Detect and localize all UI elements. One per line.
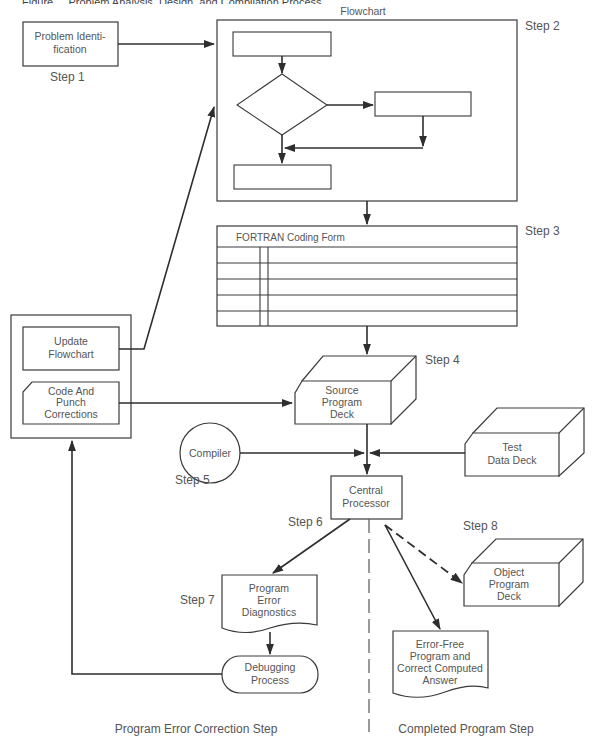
step-5-label: Step 5 bbox=[175, 473, 210, 487]
program-error-diagnostics-doc: Program Error Diagnostics bbox=[222, 575, 317, 633]
arrow-processor-to-output bbox=[385, 525, 440, 629]
compilation-process-diagram: Figure ... Problem Analysis, Design, and… bbox=[0, 0, 593, 740]
svg-text:Program: Program bbox=[489, 578, 530, 590]
step-3-label: Step 3 bbox=[525, 224, 560, 238]
svg-text:Punch: Punch bbox=[56, 396, 86, 408]
svg-text:Test: Test bbox=[502, 441, 521, 453]
step-1-label: Step 1 bbox=[50, 70, 85, 84]
svg-text:Data Deck: Data Deck bbox=[487, 454, 537, 466]
svg-text:Problem Identi-: Problem Identi- bbox=[34, 30, 106, 42]
fortran-coding-form: FORTRAN Coding Form bbox=[217, 226, 517, 326]
svg-text:Answer: Answer bbox=[422, 674, 458, 686]
object-program-deck: Object Program Deck bbox=[464, 539, 583, 606]
flowchart-title: Flowchart bbox=[340, 5, 386, 17]
flowchart-box bbox=[217, 20, 517, 201]
svg-text:Program: Program bbox=[249, 582, 290, 594]
svg-text:Object: Object bbox=[494, 566, 524, 578]
step-7-label: Step 7 bbox=[180, 593, 215, 607]
svg-text:Program: Program bbox=[322, 396, 363, 408]
svg-text:Deck: Deck bbox=[497, 590, 522, 602]
svg-text:FORTRAN Coding Form: FORTRAN Coding Form bbox=[236, 232, 345, 243]
arrow-processor-to-object-deck bbox=[385, 525, 462, 583]
svg-text:Error-Free: Error-Free bbox=[416, 638, 465, 650]
error-free-output-doc: Error-Free Program and Correct Computed … bbox=[393, 631, 488, 697]
svg-text:Compiler: Compiler bbox=[189, 447, 232, 459]
problem-identification-box: Problem Identi- fication bbox=[23, 22, 118, 66]
svg-text:Deck: Deck bbox=[330, 408, 355, 420]
section-label-completed: Completed Program Step bbox=[398, 722, 534, 736]
test-data-deck: Test Data Deck bbox=[465, 408, 584, 476]
central-processor-box: Central Processor bbox=[331, 476, 402, 519]
step-2-label: Step 2 bbox=[525, 19, 560, 33]
svg-text:fication: fication bbox=[53, 43, 86, 55]
svg-text:Process: Process bbox=[251, 674, 289, 686]
svg-text:Error: Error bbox=[257, 594, 281, 606]
svg-text:Diagnostics: Diagnostics bbox=[242, 606, 296, 618]
step-8-label: Step 8 bbox=[463, 519, 498, 533]
svg-text:Processor: Processor bbox=[342, 497, 390, 509]
svg-text:Program and: Program and bbox=[410, 650, 471, 662]
correction-group-box: Update Flowchart Code And Punch Correcti… bbox=[11, 315, 131, 438]
figure-caption: Figure ... Problem Analysis, Design, and… bbox=[22, 0, 322, 8]
svg-text:Corrections: Corrections bbox=[44, 408, 98, 420]
svg-text:Flowchart: Flowchart bbox=[48, 348, 94, 360]
svg-text:Update: Update bbox=[54, 335, 88, 347]
svg-text:Central: Central bbox=[349, 484, 383, 496]
source-program-deck: Source Program Deck bbox=[295, 356, 416, 424]
svg-text:Figure ... Problem Analysis, D: Figure ... Problem Analysis, Design, and… bbox=[22, 0, 322, 8]
svg-text:Source: Source bbox=[325, 384, 358, 396]
arrow-update-to-flowchart bbox=[119, 107, 214, 349]
update-flowchart-box: Update Flowchart bbox=[23, 327, 119, 370]
step-4-label: Step 4 bbox=[425, 353, 460, 367]
section-label-error-correction: Program Error Correction Step bbox=[115, 722, 278, 736]
code-punch-corrections-card: Code And Punch Corrections bbox=[23, 382, 119, 424]
svg-text:Debugging: Debugging bbox=[245, 661, 296, 673]
svg-text:Correct Computed: Correct Computed bbox=[397, 662, 483, 674]
step-6-label: Step 6 bbox=[288, 515, 323, 529]
debugging-process-terminal: Debugging Process bbox=[222, 656, 318, 693]
